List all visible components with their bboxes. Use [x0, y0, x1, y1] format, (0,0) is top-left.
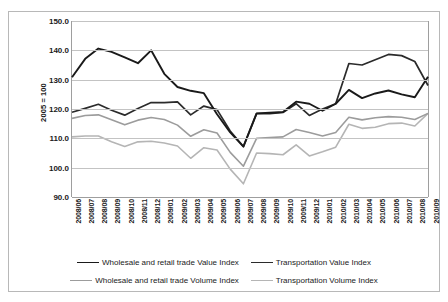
- chart-plot-wrapper: 2005 = 100 150.0140.0130.0120.0110.0100.…: [9, 12, 439, 291]
- x-axis-tick-label: 2008/06: [75, 199, 82, 224]
- chart-gridline: [72, 168, 428, 169]
- x-axis-tick-label: 2009/11: [300, 199, 307, 223]
- x-axis-tick-label: 2010/09: [433, 199, 440, 224]
- legend-row-top: Wholesale and retail trade Value IndexTr…: [9, 254, 439, 270]
- chart-gridline: [72, 109, 428, 110]
- chart-series-line: [72, 54, 428, 146]
- x-axis-tick-label: 2010/01: [326, 199, 333, 224]
- chart-gridline: [72, 138, 428, 139]
- x-axis-tick-label: 2009/07: [247, 199, 254, 224]
- x-axis-tick-label: 2008/09: [114, 199, 121, 224]
- chart-gridline: [72, 50, 428, 51]
- chart-legend: Wholesale and retail trade Value IndexTr…: [9, 254, 439, 291]
- legend-color-swatch: [251, 262, 273, 263]
- y-axis-tick-label: 150.0: [29, 17, 69, 26]
- x-axis-tick-label: 2009/01: [167, 199, 174, 224]
- y-axis-tick-label: 100.0: [29, 163, 69, 172]
- y-axis-tick-label: 90.0: [29, 193, 69, 202]
- chart-series-line: [72, 49, 428, 147]
- legend-item[interactable]: Wholesale and retail trade Value Index: [77, 258, 239, 267]
- legend-label: Wholesale and retail trade Value Index: [102, 258, 239, 267]
- x-axis-tick-label: 2008/07: [88, 199, 95, 224]
- chart-gridline: [72, 80, 428, 81]
- x-axis-tick-label: 2010/07: [406, 199, 413, 224]
- legend-label: Transportation Volume Index: [276, 276, 378, 285]
- chart-frame: 2005 = 100 150.0140.0130.0120.0110.0100.…: [8, 11, 440, 292]
- legend-item[interactable]: Transportation Value Index: [251, 258, 371, 267]
- x-axis-tick-label: 2010/08: [419, 199, 426, 224]
- y-axis-tick-column: 2005 = 100 150.0140.0130.0120.0110.0100.…: [21, 12, 69, 291]
- legend-item[interactable]: Wholesale and retail trade Volume Index: [70, 276, 239, 285]
- legend-color-swatch: [251, 280, 273, 281]
- legend-label: Wholesale and retail trade Volume Index: [95, 276, 239, 285]
- x-axis-tick-label: 2009/12: [313, 199, 320, 224]
- chart-gridline: [72, 21, 428, 22]
- x-axis-tick-label: 2008/08: [101, 199, 108, 224]
- x-axis-tick-label: 2009/06: [234, 199, 241, 224]
- x-axis-tick-label: 2009/02: [181, 199, 188, 224]
- legend-row-bottom: Wholesale and retail trade Volume IndexT…: [9, 272, 439, 288]
- x-axis-tick-label: 2010/04: [366, 199, 373, 224]
- x-axis-tick-label: 2008/11: [141, 199, 148, 223]
- x-axis-tick-label: 2010/05: [379, 199, 386, 224]
- x-axis-tick-label: 2009/05: [220, 199, 227, 224]
- x-axis-tick-label: 2008/10: [128, 199, 135, 224]
- x-axis-tick-label: 2010/06: [393, 199, 400, 224]
- x-axis-tick-label: 2009/10: [287, 199, 294, 224]
- x-axis-tick-label: 2009/03: [194, 199, 201, 224]
- x-axis-tick-label: 2009/08: [260, 199, 267, 224]
- y-axis-tick-label: 120.0: [29, 105, 69, 114]
- x-axis-tick-label: 2010/02: [340, 199, 347, 224]
- y-axis-tick-label: 130.0: [29, 75, 69, 84]
- y-axis-tick-label: 110.0: [29, 134, 69, 143]
- x-axis-tick-label: 2010/03: [353, 199, 360, 224]
- legend-item[interactable]: Transportation Volume Index: [251, 276, 378, 285]
- x-axis-tick-labels: 2008/062008/072008/082008/092008/102008/…: [71, 199, 429, 257]
- legend-color-swatch: [77, 262, 99, 263]
- chart-series-line: [72, 113, 428, 166]
- y-axis-tick-label: 140.0: [29, 46, 69, 55]
- legend-label: Transportation Value Index: [276, 258, 371, 267]
- x-axis-tick-label: 2008/12: [154, 199, 161, 224]
- x-axis-tick-label: 2009/09: [273, 199, 280, 224]
- legend-color-swatch: [70, 280, 92, 281]
- x-axis-tick-label: 2009/04: [207, 199, 214, 224]
- plot-area: [71, 21, 429, 197]
